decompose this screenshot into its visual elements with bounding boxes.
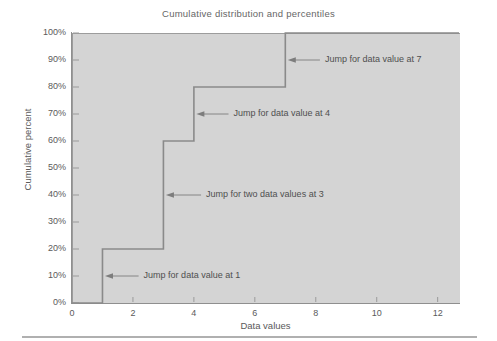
annotation-arrow-head (196, 111, 204, 117)
annotation-jump-at-7: Jump for data value at 7 (325, 54, 422, 64)
cumulative-step-line (72, 33, 459, 303)
annotation-jump-at-3: Jump for two data values at 3 (206, 189, 324, 199)
annotation-arrow-head (105, 273, 113, 279)
annotation-arrow-head (166, 192, 174, 198)
annotation-arrow-head (288, 57, 296, 63)
annotation-jump-at-4: Jump for data value at 4 (234, 108, 331, 118)
page-bottom-rule (22, 336, 477, 338)
chart-graphics (0, 0, 497, 341)
tick-marks (73, 33, 438, 303)
chart-figure: Cumulative distribution and percentiles … (0, 0, 497, 341)
annotation-arrows (105, 57, 320, 279)
annotation-jump-at-1: Jump for data value at 1 (144, 270, 241, 280)
